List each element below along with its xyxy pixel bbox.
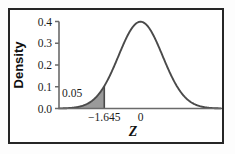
density-curve [59,22,221,109]
x-axis-tick-label: −1.645 [88,111,121,123]
x-axis-ticks: −1.6450 [88,111,144,123]
x-axis-tick-label: 0 [138,111,144,123]
figure-root: 0.00.10.20.30.4 −1.6450 Density Z 0.05 [0,0,235,154]
x-axis-title: Z [128,124,138,139]
y-axis-tick-label: 0.1 [38,81,53,93]
y-axis-tick-label: 0.3 [38,37,53,49]
y-axis-tick-label: 0.2 [38,59,53,71]
y-axis-title: Density [11,41,26,89]
y-axis-ticks: 0.00.10.20.30.4 [38,16,59,115]
tail-area-annotation: 0.05 [62,87,82,99]
y-axis-tick-label: 0.4 [38,16,53,28]
y-axis-tick-label: 0.0 [38,103,53,115]
normal-density-plot: 0.00.10.20.30.4 −1.6450 Density Z 0.05 [0,0,235,154]
